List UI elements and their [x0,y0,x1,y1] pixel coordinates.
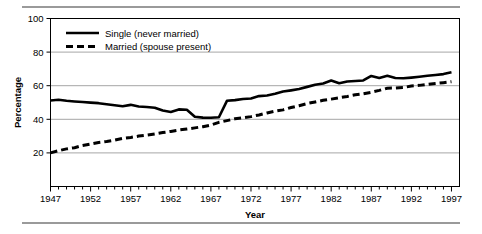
x-axis-tick-label: 1997 [441,193,462,204]
y-axis-ticks [47,19,51,153]
data-series [51,72,452,153]
x-axis-tick-label: 1962 [160,193,181,204]
chart-legend: Single (never married)Married (spouse pr… [66,28,211,53]
x-axis-tick-label: 1972 [240,193,261,204]
x-axis-tick-label: 1957 [120,193,141,204]
x-axis-tick-label: 1992 [401,193,422,204]
legend-label-1: Single (never married) [105,28,199,39]
legend-label-2: Married (spouse present) [105,41,211,52]
x-axis-tick-label: 1982 [321,193,342,204]
y-axis-tick-label: 20 [33,147,44,158]
x-axis-tick-label: 1947 [40,193,61,204]
series-line-1 [51,72,452,118]
figure-container: 20406080100 1947195219571962196719721977… [0,0,482,234]
y-axis-tick-label: 60 [33,80,44,91]
grid-lines [51,52,460,153]
x-axis-ticks [51,187,452,192]
y-axis-tick-label: 40 [33,114,44,125]
x-axis-tick-label: 1977 [281,193,302,204]
x-axis-tick-labels: 1947195219571962196719721977198219871992… [40,193,462,204]
x-axis-tick-label: 1952 [80,193,101,204]
x-axis-tick-label: 1987 [361,193,382,204]
series-line-2 [51,82,452,153]
y-axis-tick-label: 80 [33,47,44,58]
y-axis-tick-labels: 20406080100 [28,13,44,158]
x-axis-title: Year [245,209,265,220]
y-axis-title: Percentage [12,77,23,128]
line-chart: 20406080100 1947195219571962196719721977… [0,0,482,234]
y-axis-tick-label: 100 [28,13,44,24]
x-axis-tick-label: 1967 [200,193,221,204]
